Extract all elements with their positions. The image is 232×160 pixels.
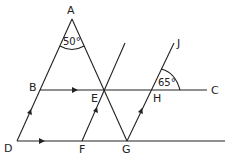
- line-GJ: [127, 43, 174, 141]
- arrow-FE-icon: [93, 107, 98, 113]
- label-A: A: [67, 4, 75, 17]
- label-E: E: [91, 92, 98, 105]
- angle-label-H: 65°: [158, 77, 176, 88]
- arrow-BE-icon: [72, 87, 78, 93]
- label-C: C: [211, 84, 219, 97]
- geometry-diagram: A B C D E F G H J 50° 65°: [0, 0, 232, 160]
- label-F: F: [79, 143, 85, 156]
- label-D: D: [4, 142, 12, 155]
- label-G: G: [122, 143, 131, 156]
- label-J: J: [176, 37, 180, 50]
- label-H: H: [153, 92, 161, 105]
- label-B: B: [29, 81, 37, 94]
- arrow-DF-icon: [39, 138, 45, 144]
- angle-label-A: 50°: [63, 36, 81, 47]
- line-FE: [82, 43, 125, 141]
